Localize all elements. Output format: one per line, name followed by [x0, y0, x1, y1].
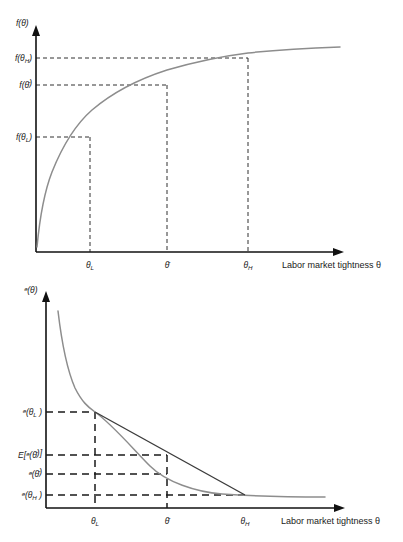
top-y-label-f-theta-bar: f(θ̄): [19, 78, 32, 90]
figure-svg: f(θ) f(θH) f(θ̄) f(θL) θL θ̄ θH Labor ma…: [0, 0, 403, 542]
top-x-tick-theta-h: θH: [243, 260, 253, 271]
bottom-panel: ᵊ(θ) ᵊ(θL ) E[ᵊ(θ̄)] ᵊ(θ̄) ᵊ(θH ) θL θ̄ …: [18, 285, 380, 527]
bottom-curve-u-theta: [58, 311, 325, 497]
economics-figure: f(θ) f(θH) f(θ̄) f(θL) θL θ̄ θH Labor ma…: [0, 0, 403, 542]
bottom-x-axis-arrow-icon: [334, 504, 345, 512]
bottom-y-axis-title: ᵊ(θ): [24, 285, 38, 295]
bottom-chord-expected-utility: [95, 412, 245, 495]
top-x-tick-theta-bar: θ̄: [165, 260, 172, 270]
bottom-y-label-expected-u: E[ᵊ(θ̄)]: [18, 448, 43, 460]
top-y-label-f-theta-l: f(θL): [16, 132, 32, 143]
top-x-tick-theta-l: θL: [86, 260, 95, 271]
top-x-axis-caption: Labor market tightness θ: [282, 260, 381, 270]
bottom-y-label-u-theta-l: ᵊ(θL ): [23, 407, 43, 418]
top-panel: f(θ) f(θH) f(θ̄) f(θL) θL θ̄ θH Labor ma…: [15, 18, 381, 271]
top-x-axis-arrow-icon: [333, 248, 344, 256]
bottom-y-axis-arrow-icon: [42, 291, 50, 302]
bottom-y-label-u-theta-h: ᵊ(θH ): [22, 490, 43, 501]
top-y-axis-title: f(θ): [16, 18, 29, 28]
bottom-x-axis-caption: Labor market tightness θ: [281, 516, 380, 526]
top-y-label-f-theta-h: f(θH): [15, 53, 32, 64]
top-y-axis-arrow-icon: [32, 25, 40, 36]
bottom-x-tick-theta-l: θL: [91, 516, 100, 527]
bottom-y-label-u-theta-bar: ᵊ(θ̄): [28, 467, 42, 479]
top-curve-f-theta: [37, 47, 340, 247]
bottom-x-tick-theta-h: θH: [240, 516, 250, 527]
bottom-x-tick-theta-bar: θ̄: [165, 516, 172, 526]
